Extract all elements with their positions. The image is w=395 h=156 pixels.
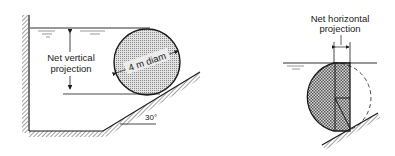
submerged-section — [307, 63, 350, 131]
vertical-label-line2: projection — [50, 63, 91, 74]
water-ripples — [38, 31, 105, 37]
water-ripples-right — [287, 66, 304, 69]
left-figure: 4 m diam Net vertical projection 30° — [22, 15, 200, 137]
angle-label: 30° — [145, 113, 157, 122]
diagram-canvas: 4 m diam Net vertical projection 30° Net… — [0, 0, 395, 156]
horizontal-label-line2: projection — [319, 23, 360, 34]
right-figure: Net horizontal projection — [283, 13, 380, 150]
left-wall-hatch — [22, 15, 28, 133]
vertical-label-line1: Net vertical — [47, 52, 95, 63]
floor-hatch — [29, 131, 104, 137]
